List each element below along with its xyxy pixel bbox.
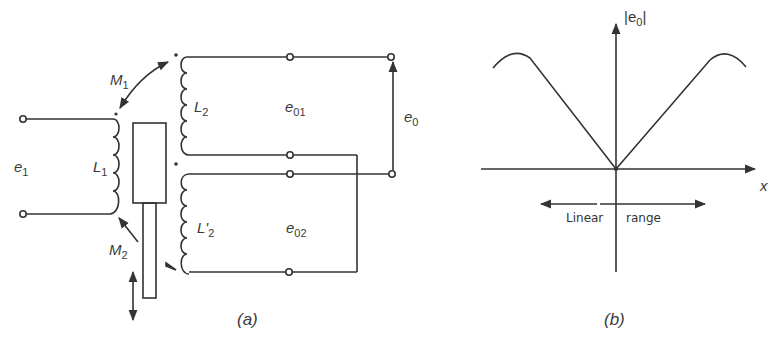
label-L1: L1: [93, 159, 107, 178]
dot-L2-prime: [174, 162, 178, 166]
label-e0: e0: [404, 109, 418, 128]
response-curve: [493, 53, 746, 169]
primary-coil-L1: [110, 119, 119, 214]
secondary-coil-L2: [181, 57, 189, 155]
dot-L1: [114, 112, 117, 115]
label-e01: e01: [285, 99, 306, 118]
caption-a: (a): [237, 311, 258, 328]
x-axis-label: x: [760, 178, 768, 193]
label-L2-prime: L'2: [197, 220, 214, 239]
range-label: range: [626, 212, 661, 224]
caption-b: (b): [604, 311, 625, 328]
label-e1: e1: [14, 159, 28, 178]
label-M2: M2: [109, 242, 128, 261]
diagram-canvas: [0, 0, 781, 340]
dot-L2: [174, 53, 178, 57]
label-M1: M1: [110, 72, 129, 91]
core-rod: [143, 203, 156, 298]
y-axis-label: |e0|: [624, 9, 646, 28]
linear-label: Linear: [566, 212, 603, 224]
movable-core: [133, 123, 166, 203]
secondary-coil-L2-prime: [181, 174, 189, 274]
label-L2: L2: [194, 99, 208, 118]
mutual-inductance-M2-arrow: [119, 218, 138, 242]
label-e02: e02: [286, 220, 307, 239]
